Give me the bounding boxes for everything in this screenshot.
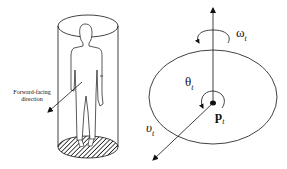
p-label: pt <box>215 109 224 126</box>
person-figure <box>71 24 103 142</box>
v-subscript: t <box>152 129 154 138</box>
velocity-arrow <box>153 103 213 160</box>
omega-symbol: ω <box>236 25 245 40</box>
p-subscript: t <box>222 117 224 126</box>
theta-label: θt <box>185 75 193 92</box>
rotation-arc-icon <box>198 30 230 43</box>
omega-subscript: t <box>245 34 247 43</box>
theta-subscript: t <box>191 83 193 92</box>
hatched-base <box>58 136 118 158</box>
forward-facing-label: Forward-facing direction <box>10 89 54 102</box>
v-label: υt <box>146 121 154 138</box>
caption-line-1: Forward-facing <box>10 89 54 95</box>
omega-label: ωt <box>236 26 247 43</box>
caption-line-2: direction <box>10 96 54 102</box>
